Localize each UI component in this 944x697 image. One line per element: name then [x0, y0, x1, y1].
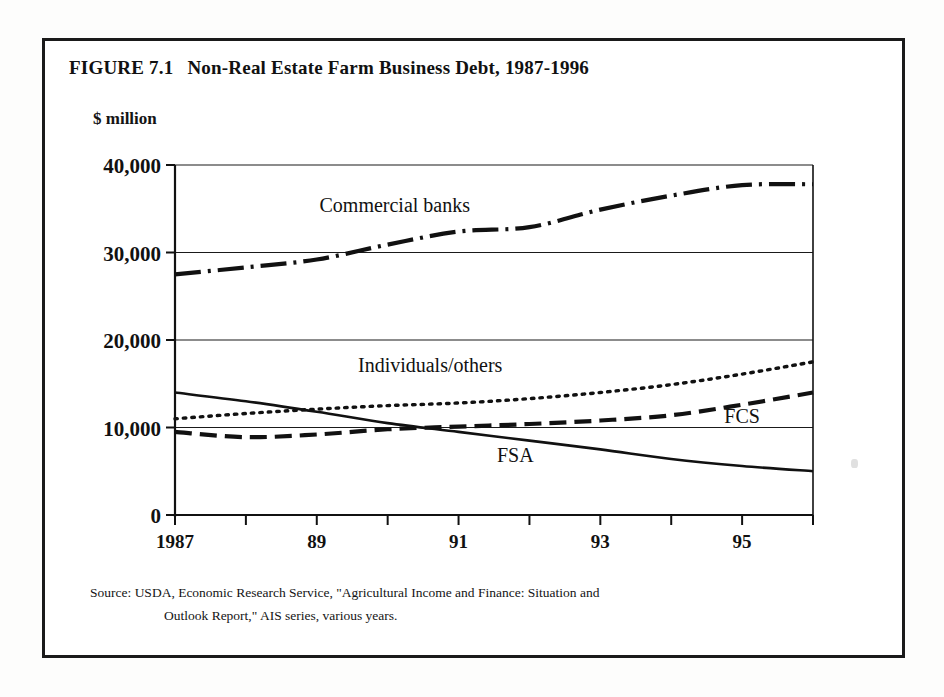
series-label-individuals-others: Individuals/others [358, 354, 503, 376]
x-tick-label-1991: 91 [449, 531, 468, 552]
x-tick-group [175, 515, 813, 525]
y-tick-group [166, 165, 175, 515]
series-line-commercial-banks [175, 184, 813, 274]
figure-frame: FIGURE 7.1Non-Real Estate Farm Business … [42, 38, 905, 658]
scan-artifact-speck [851, 459, 858, 468]
y-tick-labels-group: 010,00020,00030,00040,000 [103, 154, 161, 528]
chart-canvas: 010,00020,00030,00040,000 198789919395 C… [45, 41, 908, 661]
page-background: FIGURE 7.1Non-Real Estate Farm Business … [0, 0, 944, 697]
x-tick-label-1987: 1987 [156, 531, 195, 552]
line-chart: 010,00020,00030,00040,000 198789919395 C… [45, 41, 908, 661]
x-tick-label-1993: 93 [591, 531, 610, 552]
y-tick-label-0: 0 [151, 504, 162, 528]
data-series-group [175, 184, 813, 471]
y-tick-label-10000: 10,000 [103, 417, 161, 441]
source-label: Source: [90, 585, 131, 600]
series-label-fsa: FSA [497, 444, 534, 466]
y-tick-label-20000: 20,000 [103, 329, 161, 353]
y-tick-label-40000: 40,000 [103, 154, 161, 178]
series-line-fsa [175, 393, 813, 472]
source-line-1: USDA, Economic Research Service, "Agricu… [135, 585, 600, 600]
series-label-commercial-banks: Commercial banks [319, 194, 470, 216]
x-tick-label-1995: 95 [733, 531, 752, 552]
gridlines-group [175, 165, 813, 428]
x-tick-label-1989: 89 [307, 531, 326, 552]
x-tick-labels-group: 198789919395 [156, 531, 752, 552]
series-label-fcs: FCS [724, 405, 760, 427]
source-note: Source: USDA, Economic Research Service,… [90, 582, 870, 627]
source-line-2: Outlook Report," AIS series, various yea… [90, 605, 870, 627]
y-tick-label-30000: 30,000 [103, 242, 161, 266]
series-line-fcs [175, 393, 813, 438]
